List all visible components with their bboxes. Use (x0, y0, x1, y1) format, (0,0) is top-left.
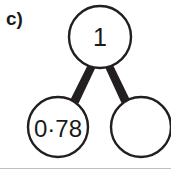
item-label: c) (6, 8, 23, 29)
whole-node-value: 1 (93, 23, 107, 51)
part-node-left-value: 0·78 (34, 115, 82, 142)
connector-right (105, 63, 130, 103)
part-whole-diagram: 1 0·78 c) (0, 0, 171, 173)
part-node-right-circle[interactable] (111, 97, 171, 157)
part-whole-figure: 1 0·78 c) (0, 0, 171, 173)
connector-left (71, 64, 96, 104)
